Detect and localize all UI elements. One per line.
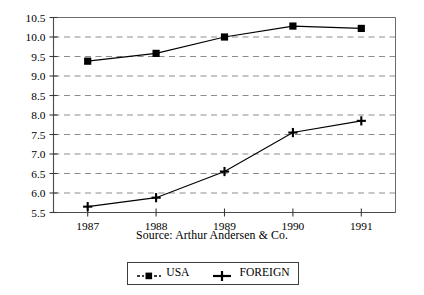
y-tick-label: 8.5 — [31, 90, 46, 102]
data-point-usa — [153, 50, 160, 57]
y-tick-label: 6.0 — [31, 187, 46, 199]
legend-label-foreign: FOREIGN — [239, 267, 289, 280]
legend-label-usa: USA — [166, 267, 189, 280]
axis-ticks — [50, 18, 362, 217]
y-tick-label: 10.5 — [26, 12, 46, 24]
y-tick-label: 10.0 — [26, 31, 46, 43]
y-tick-label: 6.5 — [31, 168, 46, 180]
legend-marker-square-icon — [136, 268, 162, 280]
data-point-foreign — [83, 202, 92, 211]
data-point-usa — [84, 58, 91, 65]
series-line-foreign — [88, 121, 362, 207]
legend-item-foreign: FOREIGN — [209, 267, 289, 280]
data-point-usa — [289, 22, 296, 29]
y-tick-label: 8.0 — [31, 109, 46, 121]
series-line-usa — [88, 26, 362, 61]
y-tick-label: 7.5 — [31, 129, 46, 141]
data-point-foreign — [288, 128, 297, 137]
data-point-usa — [221, 33, 228, 40]
data-point-foreign — [357, 116, 366, 125]
data-series-group — [83, 22, 366, 211]
chart-legend: USA FOREIGN — [127, 262, 299, 285]
y-axis-tick-labels: 10.510.09.59.08.58.07.57.06.56.05.5 — [26, 12, 46, 219]
y-tick-label: 9.5 — [31, 51, 46, 63]
y-tick-label: 9.0 — [31, 70, 46, 82]
y-tick-label: 5.5 — [31, 207, 46, 219]
data-point-foreign — [220, 167, 229, 176]
source-note: Source: Arthur Andersen & Co. — [0, 228, 424, 243]
data-point-foreign — [152, 193, 161, 202]
legend-marker-cross-icon — [209, 268, 235, 280]
legend-item-usa: USA — [136, 267, 189, 280]
chart-canvas: 10.510.09.59.08.58.07.57.06.56.05.5 1987… — [0, 0, 424, 295]
data-point-usa — [358, 25, 365, 32]
line-chart-figure: 10.510.09.59.08.58.07.57.06.56.05.5 1987… — [0, 0, 424, 295]
y-tick-label: 7.0 — [31, 148, 46, 160]
